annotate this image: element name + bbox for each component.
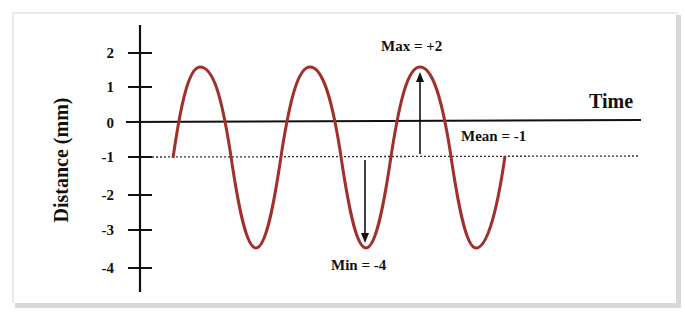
- x-axis-label: Time: [589, 90, 633, 113]
- y-tick-label: 0: [84, 115, 114, 132]
- y-tick-label: -4: [84, 260, 114, 277]
- x-axis-line: [126, 120, 641, 122]
- y-tick-label: -2: [84, 187, 114, 204]
- max-arrow-icon: [416, 72, 424, 82]
- max-annotation: Max = +2: [381, 38, 442, 55]
- y-tick-label: -1: [84, 149, 114, 166]
- y-axis-label: Distance (mm): [50, 98, 73, 223]
- displacement-curve: [173, 67, 505, 248]
- y-tick-label: 2: [84, 45, 114, 62]
- min-annotation: Min = -4: [331, 257, 386, 274]
- mean-dotted-line: [152, 156, 639, 157]
- y-tick-label: -3: [84, 222, 114, 239]
- y-tick-label: 1: [84, 79, 114, 96]
- min-arrow-icon: [361, 233, 369, 243]
- mean-annotation: Mean = -1: [461, 128, 526, 145]
